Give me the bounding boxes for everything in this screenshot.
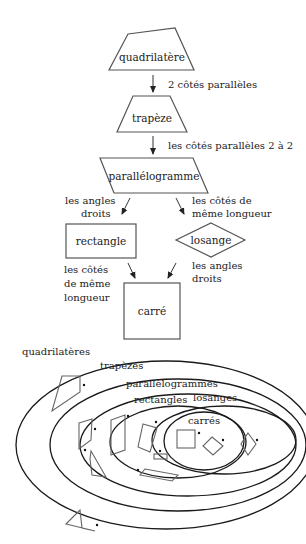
node-carre: carré <box>124 283 180 339</box>
edge-label-para-to-los-1: les côtés de <box>192 195 252 206</box>
example-square-2 <box>203 437 223 455</box>
edge-label-rect-to-carre-3: longueur <box>64 292 110 303</box>
dot <box>96 524 98 526</box>
edge-label-rect-to-carre-2: de même <box>64 278 110 289</box>
set-label-carres: carrés <box>188 415 220 426</box>
dot <box>94 428 96 430</box>
arrow-los-to-carre <box>168 263 176 278</box>
dot <box>256 439 258 441</box>
node-trapeze: trapèze <box>117 96 187 132</box>
arrow-para-to-rect <box>122 198 130 214</box>
node-parallelogramme: parallélogramme <box>100 158 208 193</box>
node-carre-label: carré <box>138 305 166 317</box>
quadrilateral-hierarchy-diagram: quadrilatère 2 côtés parallèles trapèze … <box>0 0 306 544</box>
example-square-1 <box>177 430 195 448</box>
node-quadrilatere: quadrilatère <box>109 28 194 70</box>
arrow-rect-to-carre <box>128 263 135 278</box>
set-label-trapezes: trapèzes <box>100 360 143 371</box>
dot <box>137 469 139 471</box>
edge-label-para-to-rect-2: droits <box>81 208 111 219</box>
dot <box>222 439 224 441</box>
edge-label-para-to-los-2: même longueur <box>192 208 272 219</box>
set-parallelogrammes <box>80 394 296 496</box>
node-quadrilatere-label: quadrilatère <box>119 51 185 63</box>
node-rectangle-label: rectangle <box>76 235 127 247</box>
edge-label-los-to-carre-2: droits <box>192 273 222 284</box>
node-trapeze-label: trapèze <box>132 112 172 124</box>
edge-label-trap-to-para: les côtés parallèles 2 à 2 <box>168 140 293 151</box>
arrow-para-to-los <box>176 198 184 214</box>
edge-label-rect-to-carre-1: les côtés <box>64 264 108 275</box>
dot <box>198 432 200 434</box>
edge-label-quad-to-trap: 2 côtés parallèles <box>168 79 257 90</box>
edge-label-los-to-carre-1: les angles <box>192 260 242 271</box>
set-label-quadrilateres: quadrilatères <box>22 346 90 357</box>
set-label-rectangles: rectangles <box>134 394 187 405</box>
dot <box>127 415 129 417</box>
set-label-losanges: losanges <box>193 392 237 403</box>
dot <box>84 449 86 451</box>
node-losange: losange <box>176 223 245 257</box>
example-parallelogram-2 <box>140 469 178 481</box>
dot <box>83 384 85 386</box>
example-quadrilateral-2 <box>66 510 95 531</box>
edge-label-para-to-rect-1: les angles <box>65 195 115 206</box>
set-label-parallelogrammes: parallèlogrammes <box>126 378 218 389</box>
dot <box>155 421 157 423</box>
node-rectangle: rectangle <box>66 224 136 258</box>
flowchart: quadrilatère 2 côtés parallèles trapèze … <box>64 28 293 339</box>
node-losange-label: losange <box>190 234 231 246</box>
node-parallelogramme-label: parallélogramme <box>109 170 200 182</box>
dot <box>159 450 161 452</box>
euler-diagram: quadrilatères trapèzes parallèlogrammes … <box>16 346 306 531</box>
quadrilateral-shape <box>109 28 194 70</box>
